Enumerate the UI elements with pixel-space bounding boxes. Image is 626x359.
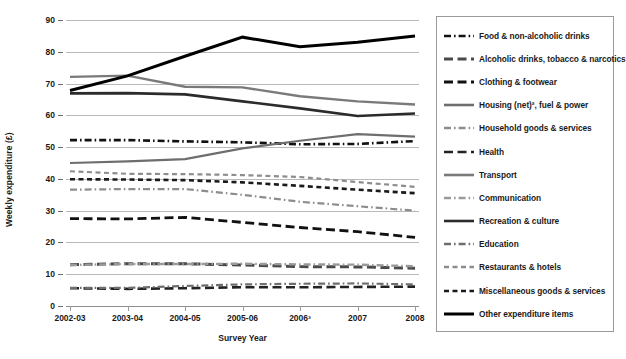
legend-swatch-icon	[444, 261, 474, 273]
legend-item[interactable]: Transport	[444, 163, 608, 186]
y-tick-mark	[58, 211, 63, 212]
legend-label: Alcoholic drinks, tobacco & narcotics	[479, 54, 626, 64]
legend-item[interactable]: Education	[444, 233, 608, 256]
x-tick-label: 2004-05	[169, 313, 200, 323]
legend-label: Communication	[479, 193, 541, 203]
y-tick-label: 20	[46, 237, 55, 247]
y-tick-label: 80	[46, 47, 55, 57]
x-tick-label: 2005-06	[227, 313, 258, 323]
legend-item[interactable]: Recreation & culture	[444, 210, 608, 233]
legend-swatch-icon	[444, 99, 474, 111]
x-tick-mark	[300, 306, 301, 311]
y-tick-mark	[58, 147, 63, 148]
legend-label: Education	[479, 239, 519, 249]
series-line	[70, 93, 415, 116]
y-tick-mark	[58, 115, 63, 116]
y-tick-label: 70	[46, 79, 55, 89]
legend-label: Household goods & services	[479, 123, 592, 133]
series-line	[70, 36, 415, 91]
y-tick-mark	[58, 84, 63, 85]
legend-item[interactable]: Alcoholic drinks, tobacco & narcotics	[444, 47, 608, 70]
x-tick-mark	[415, 306, 416, 311]
y-tick-label: 30	[46, 206, 55, 216]
series-line	[70, 217, 415, 237]
legend-label: Other expenditure items	[479, 309, 573, 319]
legend: Food & non-alcoholic drinksAlcoholic dri…	[436, 16, 614, 332]
series-line	[70, 179, 415, 193]
y-tick-label: 0	[50, 301, 55, 311]
x-axis-tick-labels: 2002-032003-042004-052005-062006³2007200…	[66, 313, 419, 327]
legend-swatch-icon	[444, 308, 474, 320]
legend-label: Restaurants & hotels	[479, 262, 561, 272]
legend-swatch-icon	[444, 122, 474, 134]
series-line	[70, 283, 415, 287]
legend-swatch-icon	[444, 192, 474, 204]
chart-panel: Weekly expenditure (£) 01020304050607080…	[0, 0, 432, 359]
legend-swatch-icon	[444, 238, 474, 250]
y-tick-mark	[58, 179, 63, 180]
legend-item[interactable]: Household goods & services	[444, 117, 608, 140]
series-line	[70, 140, 415, 144]
legend-label: Transport	[479, 170, 517, 180]
series-line	[70, 134, 415, 163]
x-tick-label: 2003-04	[112, 313, 143, 323]
legend-item[interactable]: Communication	[444, 186, 608, 209]
legend-item[interactable]: Other expenditure items	[444, 302, 608, 325]
y-tick-mark	[58, 242, 63, 243]
legend-label: Food & non-alcoholic drinks	[479, 31, 590, 41]
x-tick-mark	[70, 306, 71, 311]
x-tick-mark	[243, 306, 244, 311]
y-axis-ticks: 0102030405060708090	[0, 20, 66, 306]
legend-swatch-icon	[444, 285, 474, 297]
legend-item[interactable]: Clothing & footwear	[444, 70, 608, 93]
legend-item[interactable]: Housing (net)², fuel & power	[444, 94, 608, 117]
x-tick-label: 2007	[348, 313, 367, 323]
legend-swatch-icon	[444, 215, 474, 227]
x-tick-label: 2008	[406, 313, 425, 323]
y-tick-mark	[58, 52, 63, 53]
x-axis-title: Survey Year	[66, 333, 419, 343]
x-tick-mark	[185, 306, 186, 311]
legend-swatch-icon	[444, 169, 474, 181]
legend-label: Health	[479, 147, 504, 157]
x-tick-label: 2006³	[289, 313, 311, 323]
y-tick-label: 40	[46, 174, 55, 184]
y-tick-label: 90	[46, 15, 55, 25]
plot-area	[66, 20, 419, 306]
series-line	[70, 189, 415, 211]
legend-item[interactable]: Restaurants & hotels	[444, 256, 608, 279]
legend-swatch-icon	[444, 30, 474, 42]
legend-swatch-icon	[444, 76, 474, 88]
legend-swatch-icon	[444, 146, 474, 158]
y-tick-mark	[58, 274, 63, 275]
legend-label: Recreation & culture	[479, 216, 559, 226]
legend-item[interactable]: Miscellaneous goods & services	[444, 279, 608, 302]
series-line	[70, 264, 415, 267]
series-lines	[66, 20, 419, 306]
legend-label: Housing (net)², fuel & power	[479, 100, 588, 110]
y-tick-label: 60	[46, 110, 55, 120]
legend-label: Clothing & footwear	[479, 77, 557, 87]
x-tick-label: 2002-03	[54, 313, 85, 323]
x-tick-mark	[128, 306, 129, 311]
legend-swatch-icon	[444, 53, 474, 65]
series-line	[70, 287, 415, 289]
legend-item[interactable]: Health	[444, 140, 608, 163]
legend-label: Miscellaneous goods & services	[479, 286, 605, 296]
legend-item[interactable]: Food & non-alcoholic drinks	[444, 24, 608, 47]
y-tick-mark	[58, 306, 63, 307]
x-tick-mark	[358, 306, 359, 311]
y-tick-label: 10	[46, 269, 55, 279]
x-axis-tick-marks	[66, 306, 419, 312]
y-tick-mark	[58, 20, 63, 21]
y-tick-label: 50	[46, 142, 55, 152]
